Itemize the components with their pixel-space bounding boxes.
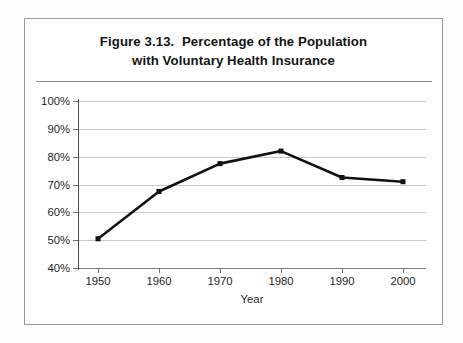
x-axis-label-1950: 1950 [85,275,110,287]
data-point-1950 [96,236,101,241]
x-axis-title: Year [78,293,426,305]
x-axis-label-2000: 2000 [390,275,415,287]
data-point-1980 [279,149,284,154]
figure-title: Figure 3.13. Percentage of the Populatio… [25,32,442,70]
x-tick-1960 [159,268,160,273]
y-axis-label-80%: 80% [47,151,70,163]
x-tick-1980 [281,268,282,273]
gridline-40% [78,268,426,269]
y-axis-label-100%: 100% [41,95,70,107]
figure-title-line-2: with Voluntary Health Insurance [25,51,442,70]
data-series-svg [78,101,426,268]
figure-frame: Figure 3.13. Percentage of the Populatio… [24,18,443,325]
y-axis-label-60%: 60% [47,206,70,218]
data-point-2000 [401,179,406,184]
series-line [98,151,403,239]
y-axis-label-40%: 40% [47,262,70,274]
y-tick-40% [73,268,78,269]
x-tick-1970 [220,268,221,273]
figure-title-line-1: Figure 3.13. Percentage of the Populatio… [25,32,442,51]
title-divider-rule [36,81,432,82]
series-markers-group [96,149,406,242]
y-axis-label-50%: 50% [47,234,70,246]
data-point-1970 [218,161,223,166]
page-background: Figure 3.13. Percentage of the Populatio… [0,0,463,343]
x-axis-label-1960: 1960 [146,275,171,287]
x-tick-1990 [342,268,343,273]
y-axis-label-70%: 70% [47,179,70,191]
x-axis-label-1970: 1970 [207,275,232,287]
x-tick-2000 [403,268,404,273]
x-axis-label-1990: 1990 [329,275,354,287]
x-tick-1950 [98,268,99,273]
plot-area: 40%50%60%70%80%90%100% 19501960197019801… [78,101,426,268]
data-point-1960 [157,189,162,194]
data-point-1990 [340,175,345,180]
y-axis-label-90%: 90% [47,123,70,135]
x-axis-label-1980: 1980 [268,275,293,287]
